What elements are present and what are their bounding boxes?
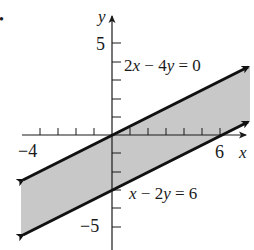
y-tick-label-5: 5 [96, 34, 105, 54]
x-axis-label: x [238, 143, 247, 162]
figure-marker: • [0, 12, 4, 27]
x-tick-label-neg4: −4 [18, 141, 37, 161]
graph: • y x 5 −5 −4 6 [0, 0, 254, 250]
y-axis-label: y [96, 7, 106, 26]
label-lower-line: x − 2y = 6 [128, 184, 197, 203]
y-tick-label-neg5: −5 [80, 216, 99, 236]
x-tick-label-6: 6 [215, 142, 224, 162]
label-upper-line: 2x − 4y = 0 [124, 56, 201, 75]
